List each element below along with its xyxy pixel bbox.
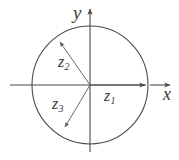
complex-plane-diagram <box>0 0 179 160</box>
figure-container: y x z1 z2 z3 <box>0 0 179 160</box>
vector-label-z2: z2 <box>58 54 69 72</box>
vector-label-z2-subscript: 2 <box>64 61 69 72</box>
x-axis-label: x <box>163 85 171 103</box>
vector-label-z3: z3 <box>52 96 63 114</box>
vector-label-z3-subscript: 3 <box>58 103 63 114</box>
vector-z3 <box>65 85 90 127</box>
y-axis-label: y <box>73 3 81 22</box>
vector-label-z1-subscript: 1 <box>110 95 115 106</box>
vector-label-z1: z1 <box>104 88 115 106</box>
